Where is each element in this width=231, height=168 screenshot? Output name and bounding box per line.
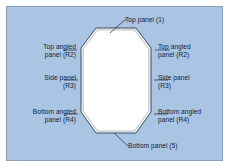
label-top-angled-panel-left: Top angled panel (R2) [14, 43, 76, 58]
label-bottom-angled-panel-right: Bottom angled panel (R4) [158, 108, 228, 123]
leader-line-bottom-panel [114, 133, 128, 146]
label-bottom-panel: Bottom panel (5) [128, 142, 212, 150]
label-side-panel-right: Side panel (R3) [158, 74, 220, 89]
label-top-angled-panel-right: Top angled panel (R2) [158, 43, 228, 58]
label-bottom-angled-panel-left: Bottom angled panel (R4) [8, 108, 76, 123]
label-side-panel-left: Side panel (R3) [14, 74, 76, 89]
octagon-face [83, 30, 149, 131]
label-top-panel: Top panel (1) [125, 16, 205, 24]
diagram-root: Top panel (1) Top angled panel (R2) Top … [0, 0, 231, 168]
